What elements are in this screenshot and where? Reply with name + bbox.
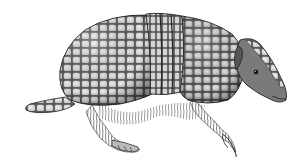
armadillo-illustration [0,0,296,166]
eye [254,70,258,74]
front-leg [190,100,236,157]
head [236,39,287,102]
shell-rear [60,15,152,105]
tail [26,97,76,113]
banded-middle [146,13,184,95]
